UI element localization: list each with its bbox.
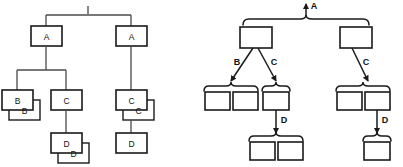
group-4-box-1 [337,92,362,110]
node-d1-back-label: D [70,149,76,159]
node-c2-front-label: C [128,96,134,106]
brace-group-5 [363,132,391,141]
brace-group-1 [204,82,258,91]
node-a2-label: A [129,32,135,42]
node-b-back-label: B [22,106,28,116]
brace-group-4 [336,82,390,91]
group-1-box-2 [233,92,258,110]
figure-root: A A B B C [0,0,403,167]
node-c1: C [51,90,82,110]
panel-schema-tree: A B C C D [200,0,403,167]
brace-root-group [243,15,369,25]
group-2-box-1 [263,92,289,110]
instance-tree-svg: A A B B C [0,0,200,167]
node-b-front-label: B [15,96,21,106]
brace-group-2 [262,82,290,91]
root-arrow-label: A [311,1,318,11]
node-root-left-box [240,27,272,48]
group-4-box-2 [365,92,390,110]
arrow-d-left-label: D [281,115,288,125]
node-b-stack: B B [2,90,40,120]
node-root-right-box [340,27,372,48]
arrow-d-right-label: D [382,115,389,125]
node-c2-back-label: C [135,106,141,116]
node-a2: A [116,26,147,46]
node-d2-label: D [128,139,134,149]
arrow-c-right-label: C [363,57,370,67]
arrow-b-label: B [234,57,241,67]
group-5-box-1 [364,142,390,160]
node-d2: D [116,133,147,153]
node-a1-label: A [44,32,50,42]
node-d1-front-label: D [63,139,69,149]
node-a1: A [31,26,62,46]
schema-tree-svg: A B C C D [200,0,403,167]
group-3-box-1 [250,142,275,160]
brace-group-3 [249,132,303,141]
group-3-box-2 [278,142,303,160]
node-c2-stack: C C [116,90,154,120]
node-c1-label: C [63,96,69,106]
group-1-box-1 [205,92,230,110]
panel-instance-tree: A A B B C [0,0,200,167]
arrow-c-left-label: C [271,57,278,67]
node-d1-stack: D D [51,133,89,163]
